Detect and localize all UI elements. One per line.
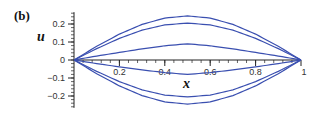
line-curve-4 (74, 60, 301, 74)
x-tick-label: 0.2 (113, 67, 126, 77)
y-tick-label: 0.2 (52, 19, 65, 29)
x-tick-label: 0.8 (249, 67, 262, 77)
axes: 0.20.10−0.1−0.20.20.40.60.81 (47, 12, 306, 108)
y-tick-label: 0 (60, 55, 65, 65)
line-curve-3 (74, 44, 301, 60)
y-tick-label: −0.2 (47, 91, 65, 101)
y-tick-label: 0.1 (52, 37, 65, 47)
plot-area: 0.20.10−0.1−0.20.20.40.60.81 (0, 0, 314, 113)
x-tick-label: 1 (301, 67, 306, 77)
y-tick-label: −0.1 (47, 73, 65, 83)
